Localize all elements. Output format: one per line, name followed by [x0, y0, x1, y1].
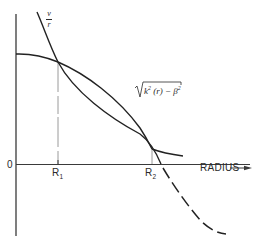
- sqrt-beta-exponent: 2: [178, 85, 181, 91]
- v-over-r-curve-dashed: [163, 168, 226, 234]
- x-axis-label: RADIUS: [200, 163, 240, 173]
- r1-subscript: 1: [60, 173, 64, 180]
- diagram-canvas: [0, 0, 259, 247]
- v-over-r-denominator: r: [47, 21, 50, 29]
- sqrt-label: k2 (r) − β2: [144, 86, 181, 96]
- v-over-r-label: v r: [46, 10, 52, 29]
- r2-label: R2: [145, 168, 156, 181]
- r1-label: R1: [52, 168, 63, 181]
- origin-label: 0: [7, 160, 13, 170]
- sqrt-arg: (r): [153, 86, 163, 96]
- r2-subscript: 2: [153, 173, 157, 180]
- sqrt-k-exponent: 2: [148, 85, 151, 91]
- r1-base: R: [52, 167, 60, 178]
- sqrt-minus: −: [165, 86, 171, 96]
- r2-base: R: [145, 167, 153, 178]
- v-over-r-numerator: v: [47, 10, 51, 18]
- v-over-r-curve: [37, 12, 161, 164]
- sqrt-curve: [16, 54, 183, 156]
